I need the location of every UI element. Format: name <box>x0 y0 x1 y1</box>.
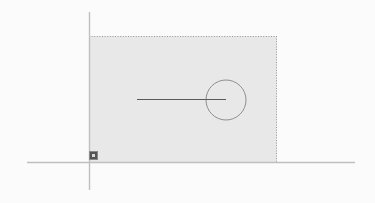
handle-core-icon <box>92 154 95 157</box>
resize-handle-bottom-left[interactable] <box>89 151 98 160</box>
geometry-canvas[interactable]: Geometry canvas x-axis y-axis Shaded rec… <box>0 0 375 203</box>
diagram-svg <box>0 0 375 203</box>
